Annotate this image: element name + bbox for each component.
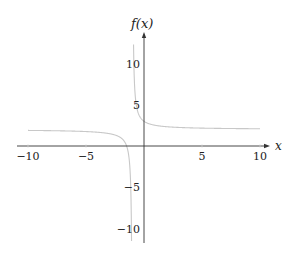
x-axis-arrow-icon: [264, 144, 270, 148]
y-axis: [142, 32, 146, 243]
y-tick-label: −5: [124, 181, 140, 194]
x-tick-labels: −10−5510: [16, 144, 267, 163]
curve-branch: [134, 44, 260, 128]
x-tick-label: 10: [253, 150, 267, 163]
y-tick-label: 10: [126, 58, 140, 71]
x-axis: [17, 144, 270, 148]
y-axis-label: f(x): [130, 16, 153, 31]
y-tick-label: −10: [117, 223, 140, 236]
x-tick-label: 5: [199, 150, 206, 163]
y-tick-label: 5: [133, 99, 140, 112]
x-axis-label: x: [275, 139, 282, 153]
y-tick-labels: −10−5510: [117, 58, 140, 236]
x-tick-label: −10: [16, 150, 39, 163]
function-plot: −10−5510 −10−5510 x f(x): [0, 0, 294, 255]
x-tick-label: −5: [78, 150, 94, 163]
y-axis-arrow-icon: [142, 32, 146, 38]
